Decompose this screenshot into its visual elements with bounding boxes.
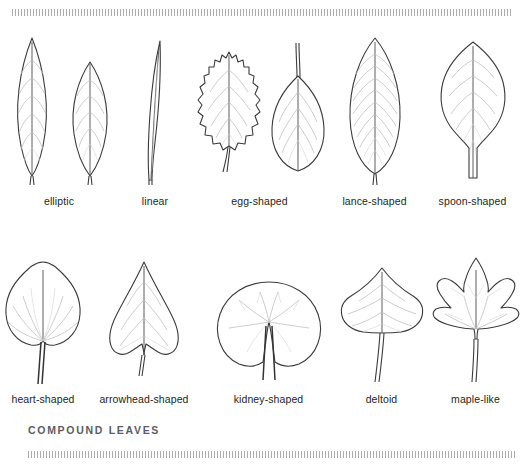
leaf-figure-arrowhead-shaped: arrowhead-shaped	[86, 248, 202, 406]
kidney-shaped-leaf-icon	[215, 276, 323, 386]
leaf-label: deltoid	[366, 393, 398, 406]
maple-like-leaf-icon	[431, 254, 521, 386]
leaf-label: arrowhead-shaped	[99, 393, 188, 406]
leaf-label: linear	[142, 195, 168, 208]
deltoid-leaf-icon	[339, 264, 425, 386]
leaf-label: heart-shaped	[11, 393, 74, 406]
leaf-figure-spoon-shaped: spoon-shaped	[422, 28, 523, 208]
linear-leaf-icon	[141, 38, 169, 186]
top-hatched-rule	[12, 9, 513, 16]
section-heading-compound-leaves: COMPOUND LEAVES	[28, 424, 160, 436]
lance-shaped-leaf-icon	[344, 34, 406, 186]
leaf-figure-maple-like: maple-like	[428, 248, 523, 406]
egg-shaped-leaf-icon	[193, 40, 327, 186]
leaf-label: kidney-shaped	[234, 393, 304, 406]
bottom-hatched-rule	[28, 451, 515, 458]
leaf-figure-kidney-shaped: kidney-shaped	[202, 248, 335, 406]
heart-shaped-leaf-icon	[1, 256, 85, 386]
leaf-figure-lance-shaped: lance-shaped	[327, 28, 422, 208]
leaf-row-2: heart-shaped arrowhead-shaped	[0, 248, 523, 406]
spoon-shaped-leaf-icon	[436, 38, 510, 186]
leaf-figure-linear: linear	[118, 28, 192, 208]
leaf-figure-egg-shaped: egg-shaped	[192, 28, 327, 208]
leaf-figure-elliptic: elliptic	[0, 28, 118, 208]
leaf-figure-heart-shaped: heart-shaped	[0, 248, 86, 406]
leaf-row-1: elliptic linear	[0, 28, 523, 208]
leaf-shapes-figure: elliptic linear	[0, 0, 523, 464]
leaf-label: lance-shaped	[342, 195, 406, 208]
leaf-label: elliptic	[44, 195, 74, 208]
elliptic-leaf-icon	[3, 34, 115, 186]
leaf-label: spoon-shaped	[439, 195, 507, 208]
leaf-figure-deltoid: deltoid	[335, 248, 428, 406]
leaf-label: maple-like	[451, 393, 500, 406]
leaf-label: egg-shaped	[231, 195, 287, 208]
arrowhead-shaped-leaf-icon	[104, 258, 184, 386]
